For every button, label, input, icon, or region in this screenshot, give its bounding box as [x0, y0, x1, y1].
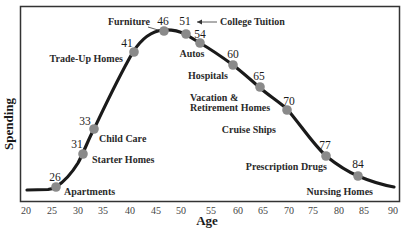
x-tick: 60	[233, 205, 243, 216]
annotation-label: Autos	[179, 48, 204, 59]
annotation-label: Furniture	[108, 16, 151, 27]
x-tick: 30	[73, 205, 83, 216]
age-number: 54	[194, 28, 206, 40]
arrow-head-icon	[197, 20, 202, 25]
x-tick: 90	[388, 205, 398, 216]
age-number: 77	[319, 139, 331, 151]
age-number: 26	[49, 171, 61, 183]
marker-77	[321, 151, 331, 161]
furniture-pointer	[148, 27, 158, 30]
x-tick: 75	[308, 205, 318, 216]
age-number: 65	[253, 70, 265, 82]
x-tick: 55	[206, 205, 216, 216]
age-number: 60	[227, 48, 239, 60]
x-tick: 25	[47, 205, 57, 216]
x-tick: 85	[359, 205, 369, 216]
annotation-label: Starter Homes	[92, 154, 154, 165]
x-axis-ticks: 20 25 30 35 40 45 50 55 60 65 70 75 80 8…	[21, 205, 398, 216]
age-number: 41	[121, 37, 133, 49]
spending-by-age-chart: Spending Age 20 25 30 35 40 45 50 55 60 …	[0, 0, 402, 230]
age-number: 33	[79, 115, 91, 127]
x-tick: 40	[125, 205, 135, 216]
annotation-label: Trade-Up Homes	[50, 53, 124, 64]
marker-31	[78, 149, 88, 159]
x-tick: 80	[334, 205, 344, 216]
annotation-label: College Tuition	[220, 16, 285, 27]
annotation-label: Child Care	[99, 133, 147, 144]
y-axis-title: Spending	[1, 97, 16, 150]
annotation-label: Nursing Homes	[307, 186, 374, 197]
x-tick: 20	[21, 205, 31, 216]
marker-51	[181, 29, 191, 39]
marker-60	[228, 60, 238, 70]
annotation-label: Cruise Ships	[222, 124, 276, 135]
age-number: 51	[179, 15, 191, 27]
x-tick: 70	[284, 205, 294, 216]
age-number: 70	[283, 95, 295, 107]
x-tick: 45	[151, 205, 161, 216]
annotation-label: Retirement Homes	[190, 102, 270, 113]
annotation-label: Prescription Drugs	[246, 161, 327, 172]
annotation-label: Hospitals	[188, 70, 228, 81]
x-tick: 65	[258, 205, 268, 216]
marker-84	[353, 171, 363, 181]
marker-26	[51, 182, 61, 192]
age-number: 84	[352, 158, 364, 170]
x-tick: 35	[98, 205, 108, 216]
age-number: 46	[157, 15, 169, 27]
marker-65	[255, 82, 265, 92]
annotations: 26 Apartments 31 Starter Homes 33 Child …	[49, 15, 373, 197]
annotation-label: Apartments	[64, 186, 115, 197]
x-tick: 50	[176, 205, 186, 216]
marker-46	[159, 26, 169, 36]
age-number: 31	[71, 138, 83, 150]
